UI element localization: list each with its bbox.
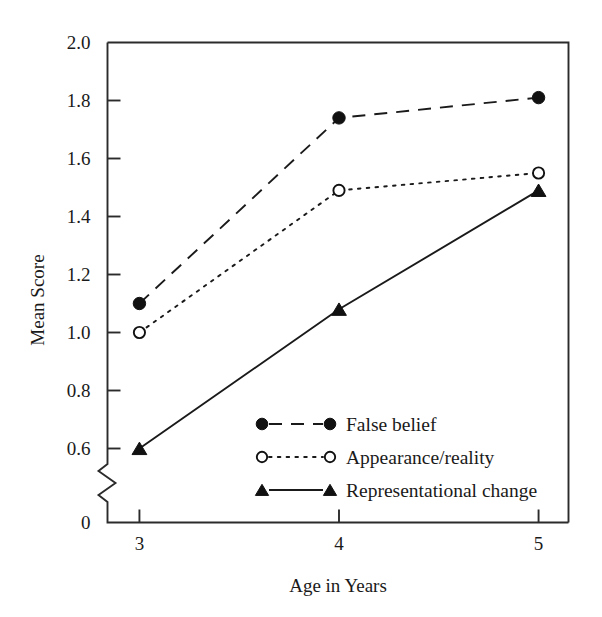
legend-item-representational-change: Representational change	[255, 480, 537, 501]
series-line	[139, 190, 538, 448]
legend-item-false-belief: False belief	[256, 414, 437, 435]
legend-label: False belief	[346, 414, 437, 435]
y-tick-label-1-0: 1.0	[67, 322, 91, 343]
x-axis-title: Age in Years	[289, 575, 387, 596]
open-circle-marker	[257, 452, 267, 462]
filled-circle-marker	[256, 418, 268, 430]
y-tick-label-1-2: 1.2	[67, 264, 91, 285]
y-tick-label-0-6: 0.6	[67, 438, 91, 459]
filled-circle-marker	[133, 297, 145, 309]
series-representational-change	[132, 184, 546, 455]
y-tick-label-1-8: 1.8	[67, 90, 91, 111]
y-axis-ticks	[108, 101, 121, 449]
y-tick-label-1-6: 1.6	[67, 148, 91, 169]
filled-circle-marker	[324, 418, 336, 430]
y-tick-label-2-0: 2.0	[67, 32, 91, 53]
data-series-group	[132, 91, 546, 454]
y-tick-label-0-8: 0.8	[67, 380, 91, 401]
y-tick-label-1-4: 1.4	[67, 206, 91, 227]
filled-triangle-marker	[531, 184, 546, 196]
legend-label: Appearance/reality	[346, 447, 495, 468]
legend-label: Representational change	[346, 480, 537, 501]
filled-triangle-marker	[323, 484, 336, 495]
legend-item-appearance-reality: Appearance/reality	[257, 447, 495, 468]
mean-score-by-age-line-chart: 2.01.81.61.41.21.00.80.60 345 False beli…	[0, 0, 602, 617]
chart-legend: False beliefAppearance/realityRepresenta…	[255, 414, 537, 501]
x-tick-label-3: 3	[135, 533, 145, 554]
open-circle-marker	[134, 327, 145, 338]
open-circle-marker	[533, 167, 544, 178]
y-axis-title: Mean Score	[27, 254, 48, 345]
filled-circle-marker	[532, 91, 544, 103]
filled-triangle-marker	[255, 484, 268, 495]
filled-circle-marker	[333, 112, 345, 124]
series-false-belief	[133, 91, 545, 309]
open-circle-marker	[325, 452, 335, 462]
y-tick-label-0: 0	[81, 512, 91, 533]
x-tick-label-4: 4	[334, 533, 344, 554]
chart-figure: 2.01.81.61.41.21.00.80.60 345 False beli…	[0, 0, 602, 617]
x-axis-tick-labels: 345	[135, 533, 544, 554]
x-axis-ticks	[139, 510, 538, 523]
x-tick-label-5: 5	[534, 533, 544, 554]
series-line	[139, 98, 538, 304]
y-axis-tick-labels: 2.01.81.61.41.21.00.80.60	[67, 32, 91, 533]
filled-triangle-marker	[332, 303, 347, 315]
open-circle-marker	[333, 185, 344, 196]
